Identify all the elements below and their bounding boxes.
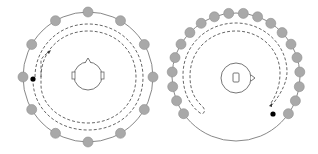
speaker-icon (224, 8, 234, 18)
speaker-array-diagram (0, 0, 318, 154)
speaker-icon (168, 82, 178, 92)
speaker-icon (83, 137, 93, 147)
speaker-icon (286, 39, 296, 49)
speaker-icon (179, 109, 189, 119)
ear-left-icon (72, 72, 75, 79)
head-icon (72, 58, 104, 90)
speaker-icon (172, 96, 182, 106)
speaker-icon (27, 105, 37, 115)
speaker-icon (18, 72, 28, 82)
speaker-icon (170, 53, 180, 63)
speaker-icon (51, 16, 61, 26)
nose-icon (251, 75, 255, 81)
speaker-icon (139, 105, 149, 115)
speaker-icon (290, 96, 300, 106)
speaker-icon (253, 12, 263, 22)
speaker-icon (27, 40, 37, 50)
speaker-icon (292, 53, 302, 63)
speaker-icon (116, 128, 126, 138)
listener-dot (30, 76, 35, 81)
speaker-icon (209, 12, 219, 22)
speaker-icon (283, 109, 293, 119)
speaker-icon (176, 39, 186, 49)
ear-right-icon (101, 72, 104, 79)
arrowhead-icon (269, 103, 272, 107)
speaker-icon (83, 7, 93, 17)
speaker-icon (295, 67, 305, 77)
speaker-icon (148, 72, 158, 82)
ear-icon (233, 73, 239, 82)
speaker-icon (51, 128, 61, 138)
speaker-icon (116, 16, 126, 26)
speaker-icon (238, 8, 248, 18)
nose-icon (85, 58, 91, 63)
head-icon (221, 63, 255, 93)
speaker-icon (167, 67, 177, 77)
right-panel (167, 8, 305, 141)
speaker-icon (139, 40, 149, 50)
listener-dot (270, 111, 275, 116)
speaker-icon (294, 82, 304, 92)
speaker-icon (196, 18, 206, 28)
speaker-icon (266, 18, 276, 28)
speaker-icon (185, 28, 195, 38)
left-panel (18, 7, 158, 147)
speaker-icon (277, 28, 287, 38)
